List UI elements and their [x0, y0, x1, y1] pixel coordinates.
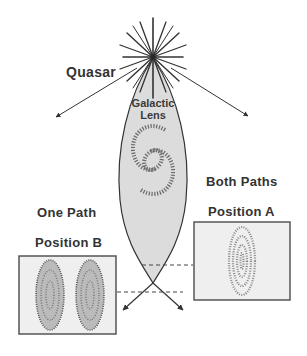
- position-b-label: Position B: [35, 235, 102, 250]
- position-a-label: Position A: [208, 204, 275, 219]
- galactic-lens-label-line2: Lens: [123, 110, 183, 121]
- position-a-panel: [194, 222, 290, 300]
- quasar-label: Quasar: [66, 64, 116, 80]
- left-path-arrow: [123, 283, 153, 310]
- position-b-panel: [19, 256, 116, 334]
- quasar-starburst-icon: [120, 18, 186, 98]
- both-paths-label: Both Paths: [206, 174, 278, 189]
- galactic-lens-label-line1: Galactic: [123, 98, 183, 109]
- one-path-label: One Path: [37, 205, 96, 220]
- right-path-arrow: [153, 283, 183, 310]
